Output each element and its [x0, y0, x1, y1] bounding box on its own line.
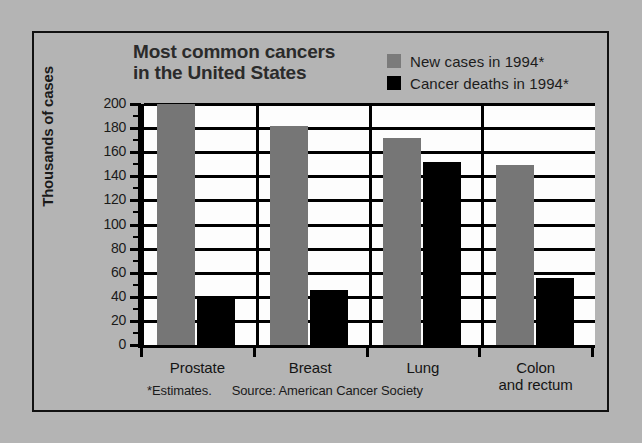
y-tick-major [130, 127, 141, 130]
y-tick-minor [133, 260, 139, 262]
x-tick [253, 348, 256, 357]
x-category-label-line: Breast [254, 359, 367, 376]
category-separator [256, 104, 259, 345]
y-tick-label: 120 [92, 191, 126, 207]
y-tick-minor [133, 115, 139, 117]
x-tick [140, 348, 143, 357]
legend-label-cancer-deaths: Cancer deaths in 1994* [410, 75, 569, 92]
bar [310, 290, 348, 345]
x-category-label-line: and rectum [479, 376, 592, 393]
y-tick-major [130, 272, 141, 275]
y-tick-label: 20 [92, 312, 126, 328]
y-tick-minor [133, 187, 139, 189]
y-tick-minor [133, 332, 139, 334]
category-separator [481, 104, 484, 345]
plot-area [141, 104, 595, 348]
y-tick-major [130, 103, 141, 106]
x-category-label: Lung [367, 359, 480, 376]
y-tick-label: 80 [92, 240, 126, 256]
legend-item-cancer-deaths: Cancer deaths in 1994* [387, 72, 569, 94]
y-axis-title: Thousands of cases [39, 42, 56, 232]
y-tick-minor [133, 139, 139, 141]
y-tick-minor [133, 163, 139, 165]
y-tick-label: 60 [92, 264, 126, 280]
bar [383, 138, 421, 345]
y-tick-minor [133, 308, 139, 310]
chart-figure: Most common cancers in the United States… [0, 0, 642, 443]
x-tick [591, 348, 594, 357]
x-category-label-line: Colon [479, 359, 592, 376]
y-tick-label: 160 [92, 143, 126, 159]
legend-label-new-cases: New cases in 1994* [410, 53, 544, 70]
y-tick-minor [133, 236, 139, 238]
y-tick-major [130, 199, 141, 202]
y-tick-minor [133, 211, 139, 213]
y-tick-label: 180 [92, 119, 126, 135]
bar [197, 299, 235, 345]
bar [536, 278, 574, 345]
y-tick-major [130, 248, 141, 251]
x-category-label: Prostate [141, 359, 254, 376]
bar [496, 165, 534, 345]
bar [157, 104, 195, 345]
y-tick-major [130, 320, 141, 323]
y-tick-label: 140 [92, 167, 126, 183]
y-tick-label: 200 [92, 95, 126, 111]
chart-title-line2: in the United States [133, 62, 383, 83]
x-category-label-line: Prostate [141, 359, 254, 376]
x-category-label-line: Lung [367, 359, 480, 376]
footnote-source: Source: American Cancer Society [232, 383, 423, 398]
y-tick-label: 0 [92, 336, 126, 352]
x-tick [478, 348, 481, 357]
bar [270, 126, 308, 345]
y-tick-label: 100 [92, 216, 126, 232]
bar [423, 162, 461, 345]
chart-legend: New cases in 1994* Cancer deaths in 1994… [387, 50, 569, 94]
x-category-label: Breast [254, 359, 367, 376]
y-tick-major [130, 344, 141, 347]
x-category-label: Colonand rectum [479, 359, 592, 393]
category-separator [369, 104, 372, 345]
y-tick-minor [133, 284, 139, 286]
legend-swatch-gray-icon [387, 54, 401, 68]
y-tick-major [130, 224, 141, 227]
footnote-estimates: *Estimates. [147, 383, 212, 398]
legend-swatch-black-icon [387, 76, 401, 90]
x-tick [366, 348, 369, 357]
y-tick-major [130, 296, 141, 299]
chart-title-line1: Most common cancers [133, 41, 335, 62]
chart-footnote: *Estimates.Source: American Cancer Socie… [147, 383, 423, 398]
legend-item-new-cases: New cases in 1994* [387, 50, 569, 72]
y-tick-major [130, 151, 141, 154]
y-tick-major [130, 175, 141, 178]
y-tick-label: 40 [92, 288, 126, 304]
chart-title: Most common cancers in the United States [133, 41, 383, 83]
